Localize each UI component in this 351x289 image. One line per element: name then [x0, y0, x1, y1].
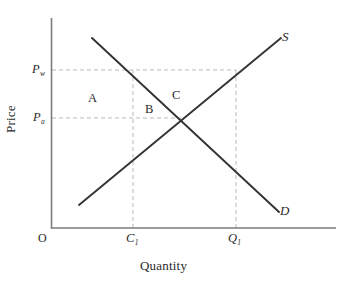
x-tick-label-consumption-base: C	[126, 231, 134, 245]
y-tick-label-autarky-price: Pa	[33, 111, 44, 124]
demand-curve	[92, 38, 279, 212]
region-label-b: B	[145, 103, 153, 116]
supply-demand-figure: Quantity Price O Pw Pa C1 Q1 S D A B C	[0, 0, 351, 289]
origin-label: O	[38, 232, 47, 244]
x-axis-title: Quantity	[140, 259, 187, 272]
supply-curve	[79, 38, 281, 205]
region-label-a: A	[88, 92, 97, 105]
y-tick-label-autarky-price-base: P	[33, 110, 41, 124]
y-tick-label-autarky-price-subscript: a	[41, 117, 45, 126]
x-tick-label-production-base: Q	[228, 231, 237, 245]
demand-curve-label: D	[280, 204, 289, 217]
x-tick-label-consumption-subscript: 1	[135, 238, 139, 247]
axis-lines	[51, 18, 336, 229]
y-tick-label-world-price: Pw	[32, 63, 45, 76]
x-tick-label-consumption: C1	[126, 232, 138, 245]
plot-area	[0, 0, 351, 289]
x-tick-label-production-subscript: 1	[237, 238, 241, 247]
y-tick-label-world-price-subscript: w	[40, 69, 45, 78]
region-label-c: C	[172, 89, 180, 102]
supply-curve-label: S	[282, 30, 289, 43]
y-axis-title: Price	[4, 105, 17, 133]
y-tick-label-world-price-base: P	[32, 62, 40, 76]
x-tick-label-production: Q1	[228, 232, 241, 245]
